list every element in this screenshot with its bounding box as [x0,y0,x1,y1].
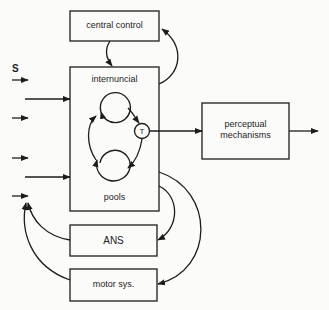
motor-label: motor sys. [70,279,157,290]
ans-label: ANS [70,235,157,246]
internuncial-label: internuncial [70,74,159,85]
central-control-label: central control [70,20,159,31]
to-ans-arrow [158,186,175,240]
upper-pool-loop [100,93,130,112]
perceptual-label-2: mechanisms [202,130,289,141]
cc-to-internuncial-arrow [106,41,112,66]
stimulus-label: S [12,63,19,74]
diagram-canvas [0,0,329,310]
lower-pool-loop [100,150,130,168]
ans-feedback-arrow [28,203,70,240]
internuncial-box [70,67,159,211]
pools-label: pools [70,192,159,203]
internuncial-to-cc-arrow [159,29,178,84]
motor-feedback-arrow [24,203,70,280]
perceptual-label-1: perceptual [202,119,289,130]
t-label: T [135,126,149,137]
